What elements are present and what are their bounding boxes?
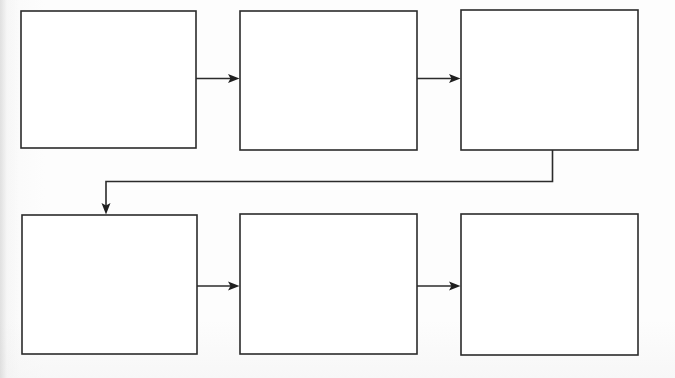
node-2-box[interactable] <box>240 11 417 150</box>
node-5[interactable] <box>240 214 417 354</box>
node-2[interactable] <box>240 11 417 150</box>
node-6[interactable] <box>461 214 638 355</box>
node-4-box[interactable] <box>22 215 197 354</box>
connector-2 <box>417 74 461 83</box>
connector-3-line <box>106 150 553 207</box>
connector-4 <box>197 282 240 291</box>
diagram-canvas <box>0 0 675 378</box>
connector-1 <box>196 74 240 83</box>
node-1[interactable] <box>21 11 196 148</box>
node-1-box[interactable] <box>21 11 196 148</box>
connector-5 <box>417 282 461 291</box>
node-5-box[interactable] <box>240 214 417 354</box>
connector-3 <box>102 150 553 215</box>
node-3[interactable] <box>461 10 638 150</box>
node-4[interactable] <box>22 215 197 354</box>
node-3-box[interactable] <box>461 10 638 150</box>
flowchart-svg <box>0 0 675 378</box>
node-6-box[interactable] <box>461 214 638 355</box>
